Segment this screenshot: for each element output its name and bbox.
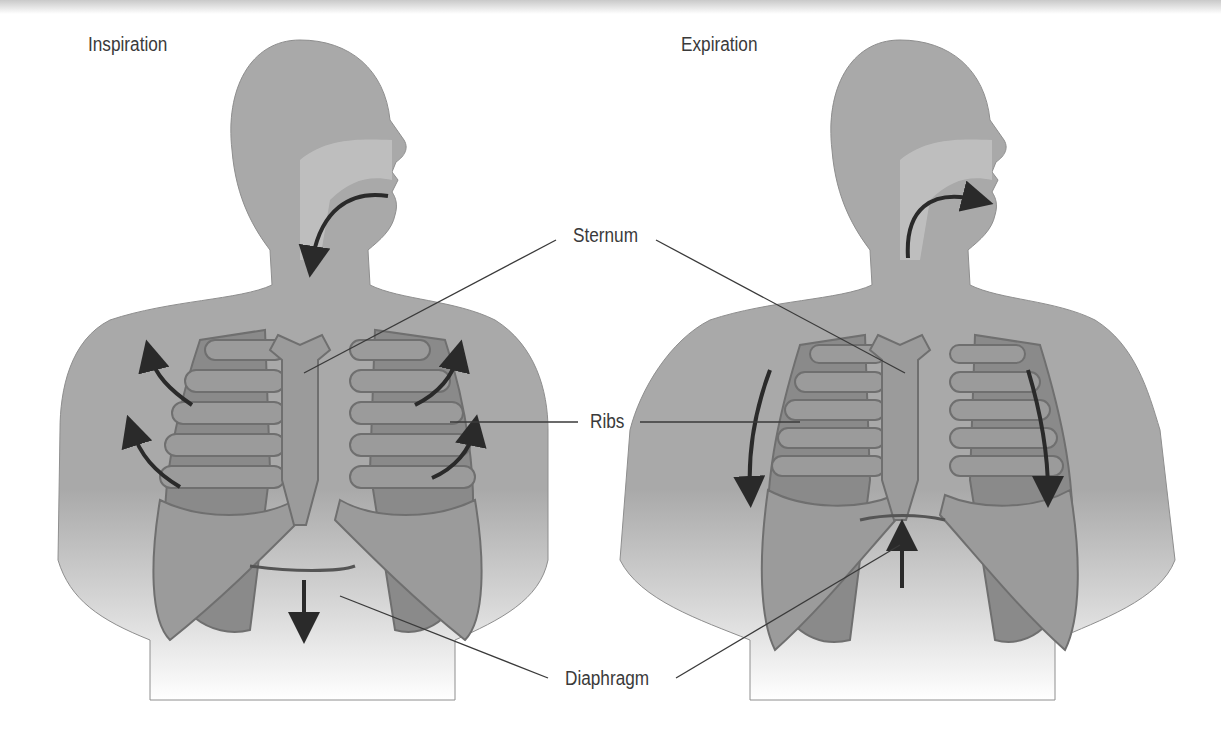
expiration-figure — [620, 40, 1175, 700]
respiration-diagram: Inspiration Expiration Sternum Ribs Diap… — [0, 0, 1221, 734]
diagram-canvas — [0, 0, 1221, 734]
expiration-title: Expiration — [681, 33, 757, 56]
inspiration-figure — [58, 40, 548, 700]
ribs-label: Ribs — [590, 410, 624, 433]
inspiration-title: Inspiration — [88, 33, 167, 56]
diaphragm-label: Diaphragm — [565, 667, 649, 690]
sternum-label: Sternum — [573, 224, 638, 247]
